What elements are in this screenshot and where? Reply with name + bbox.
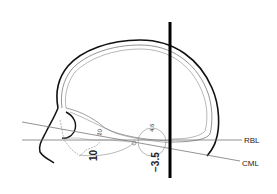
angle-label-4-6: 4.6 [149, 123, 155, 132]
orbit-outline [62, 112, 76, 138]
rbl-label: RBL [244, 136, 260, 145]
angle-label-small-10: 10 [96, 128, 103, 136]
skull-inner-table-2 [65, 49, 207, 139]
cml-label: CML [242, 159, 259, 168]
cml-line [22, 122, 240, 161]
angle-label-neg-3-5: −3.5 [150, 152, 161, 172]
cranial-base-2 [70, 112, 172, 143]
cranial-base [66, 108, 172, 141]
skull-diagram: RBL CML 10 10 4.6 −3.5 [0, 0, 277, 194]
angle-label-bold-10: 10 [88, 149, 99, 161]
skull-inner-table [61, 45, 211, 142]
face-profile [39, 108, 58, 163]
